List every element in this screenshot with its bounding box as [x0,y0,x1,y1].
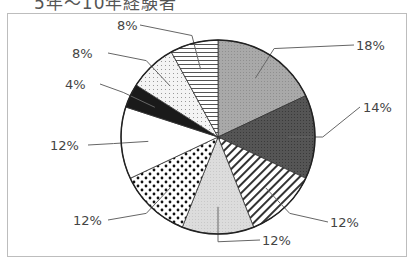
label-slice-1: 14% [363,100,392,115]
label-slice-5: 12% [50,138,79,153]
pie-slices [121,40,315,234]
pie-chart: 18% 14% 12% 12% 12% 12% 4% 8% 8% [0,0,418,267]
label-slice-6: 4% [65,77,86,92]
label-slice-7: 8% [72,46,93,61]
label-slice-4: 12% [73,213,102,228]
label-slice-2: 12% [330,215,359,230]
label-slice-3: 12% [262,233,291,248]
label-slice-8: 8% [117,18,138,33]
label-slice-0: 18% [356,38,385,53]
